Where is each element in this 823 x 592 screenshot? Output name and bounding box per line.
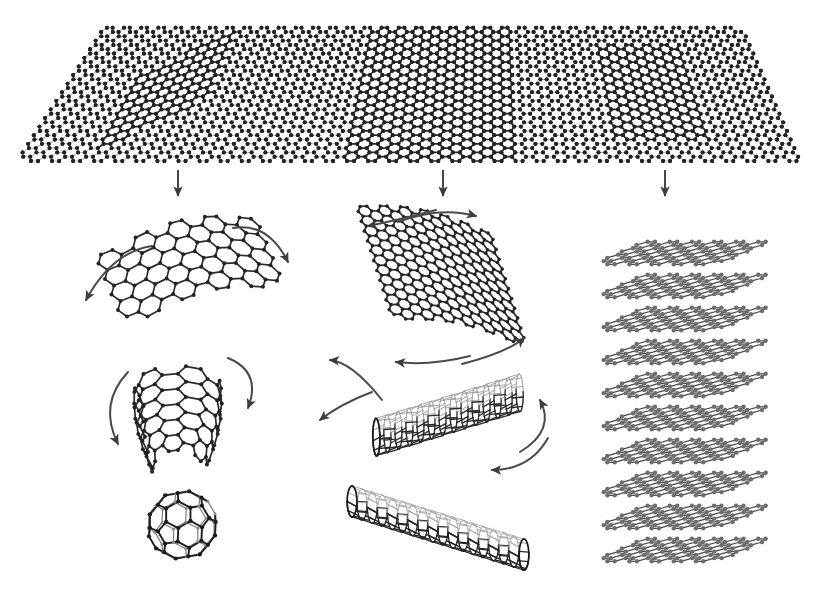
- stage-hemisphere-bowl: [110, 358, 252, 474]
- wrap-arrow-lower-left: [320, 392, 372, 420]
- graphite-layer: [601, 405, 767, 432]
- column-nanotube: [320, 204, 548, 570]
- graphite-layer: [601, 273, 767, 300]
- stage-closed-tube: [347, 486, 529, 570]
- graphite-layer: [601, 339, 767, 366]
- curl-arrow-right: [233, 227, 288, 262]
- graphite-layer: [601, 306, 767, 333]
- column-graphite: [601, 240, 767, 564]
- stage-buckyball: [147, 489, 218, 560]
- stage-open-tube: [320, 360, 548, 470]
- graphite-layer: [601, 537, 767, 564]
- graphite-layer: [601, 438, 767, 465]
- graphite-layer: [601, 471, 767, 498]
- stage-curved-sheet: [356, 204, 525, 364]
- figure-canvas: [0, 0, 823, 592]
- column-fullerene: [86, 214, 288, 560]
- wrap-arrow-right-up: [520, 400, 545, 452]
- wrap-arrow-right-down: [492, 438, 548, 470]
- graphite-layer: [601, 372, 767, 399]
- graphite-layer: [601, 240, 767, 267]
- carbon-allotropes-figure: Carbon allotropes derived from a two-dim…: [0, 0, 823, 592]
- roll-arrow-bottom-left: [396, 356, 470, 363]
- graphite-layer: [601, 504, 767, 531]
- wrap-arrow-upper-left: [330, 360, 382, 400]
- descent-arrow-group: [178, 170, 665, 196]
- graphene-mother-sheet: [21, 26, 800, 163]
- stage-curving-flake: [86, 214, 288, 318]
- close-arrow-right: [228, 358, 252, 408]
- close-arrow-left: [110, 372, 128, 444]
